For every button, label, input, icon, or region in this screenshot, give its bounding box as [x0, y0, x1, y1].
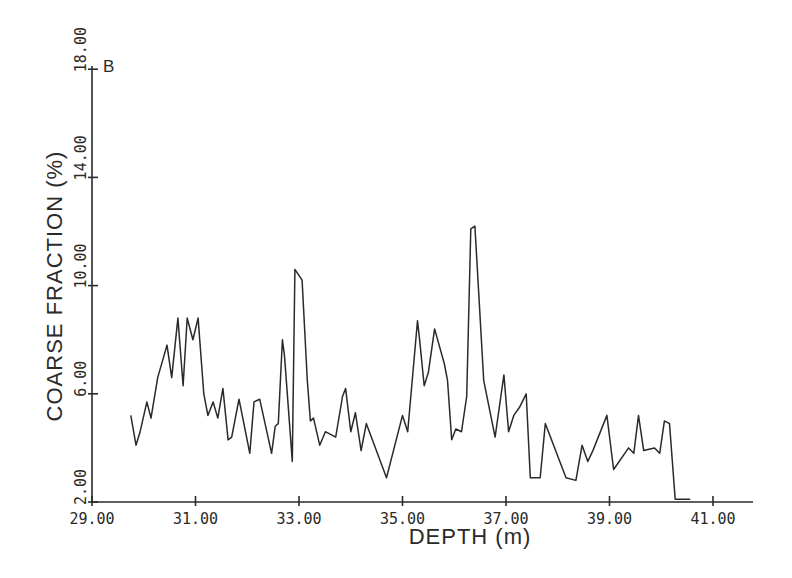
y-axis-title: COARSE FRACTION (%) [42, 151, 67, 422]
panel-label: B [103, 57, 114, 76]
x-tick-label: 31.00 [173, 510, 218, 528]
data-line [131, 226, 690, 499]
y-tick-label: 2.00 [72, 469, 90, 505]
x-tick-label: 33.00 [276, 510, 321, 528]
y-ticks: 2.006.0010.0014.0018.00 [72, 27, 98, 505]
x-tick-label: 41.00 [690, 510, 735, 528]
x-axis-title: DEPTH (m) [409, 524, 532, 549]
line-chart: 29.0031.0033.0035.0037.0039.0041.00 2.00… [0, 0, 792, 578]
y-tick-label: 18.00 [72, 27, 90, 72]
y-tick-label: 6.00 [72, 361, 90, 397]
y-tick-label: 14.00 [72, 135, 90, 180]
x-ticks: 29.0031.0033.0035.0037.0039.0041.00 [69, 496, 735, 528]
y-tick-label: 10.00 [72, 243, 90, 288]
x-tick-label: 39.00 [587, 510, 632, 528]
x-tick-label: 29.00 [69, 510, 114, 528]
axes: 29.0031.0033.0035.0037.0039.0041.00 2.00… [69, 27, 753, 528]
